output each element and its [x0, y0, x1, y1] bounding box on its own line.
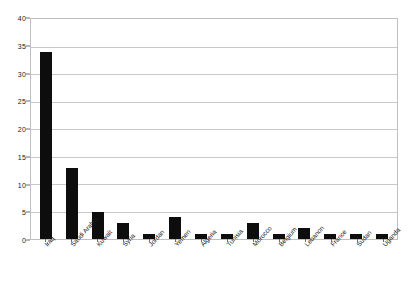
y-tick-label: 35: [18, 42, 26, 49]
y-tick-label: 0: [22, 237, 26, 244]
x-label-slot: Kuwait: [91, 241, 103, 299]
x-label-slot: Sudan: [351, 241, 363, 299]
x-label-slot: Jordan: [143, 241, 155, 299]
x-axis-labels: IraqSaudi ArabiaKuwaitSyriaJordanYemenAl…: [30, 241, 398, 299]
y-tick-label: 20: [18, 126, 26, 133]
y-tick-label: 30: [18, 70, 26, 77]
x-label-slot: Saudi Arabia: [65, 241, 77, 299]
bar-chart: 40 35 30 25 20 15 10 5 0 IraqSaudi Arabi…: [0, 0, 416, 300]
y-tick-label: 15: [18, 153, 26, 160]
y-axis: 40 35 30 25 20 15 10 5 0: [0, 18, 30, 240]
x-label-slot: Syria: [117, 241, 129, 299]
y-tick-label: 25: [18, 98, 26, 105]
x-label-slot: France: [325, 241, 337, 299]
y-tick-label: 40: [18, 15, 26, 22]
x-label-slot: Iraq: [39, 241, 51, 299]
x-label-slot: Algeria: [195, 241, 207, 299]
bar-series: [31, 19, 397, 239]
x-label-slot: Morocco: [247, 241, 259, 299]
x-label-slot: Uganda: [377, 241, 389, 299]
plot-area: [30, 18, 398, 240]
x-label-slot: Yemen: [169, 241, 181, 299]
x-label-slot: Lebanon: [299, 241, 311, 299]
bar: [66, 168, 78, 240]
y-tick-label: 10: [18, 181, 26, 188]
y-tick-label: 5: [22, 209, 26, 216]
bar: [40, 52, 52, 239]
x-label-slot: Belgium: [273, 241, 285, 299]
x-label-slot: Tunisia: [221, 241, 233, 299]
